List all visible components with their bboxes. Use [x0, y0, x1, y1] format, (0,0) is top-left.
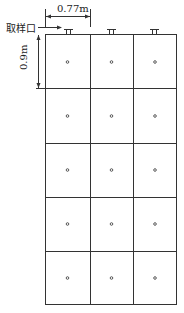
sample-points [66, 61, 156, 280]
sampling-ports [64, 30, 159, 35]
sampling-port-label: 取样口 [6, 20, 36, 35]
port-icon [107, 30, 116, 35]
port-icon [150, 30, 159, 35]
port-icon [64, 30, 73, 35]
width-label: 0.77m [57, 3, 89, 14]
height-dimension [37, 35, 41, 88]
height-label: 0.9m [18, 45, 29, 70]
sampling-arrow [38, 26, 62, 30]
